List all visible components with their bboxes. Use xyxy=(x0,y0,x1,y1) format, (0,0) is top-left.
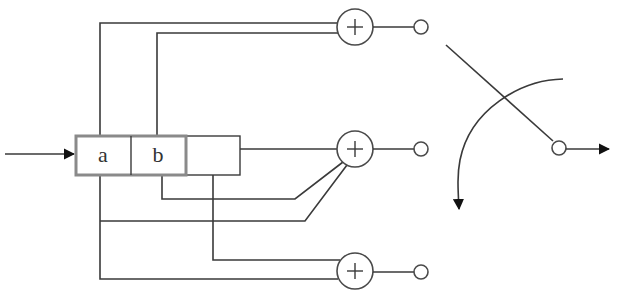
commutator-switch xyxy=(446,45,609,209)
wires-top-adder xyxy=(100,23,339,135)
register-cell-a-label: a xyxy=(98,142,108,167)
rotation-arrow-icon xyxy=(458,79,563,209)
convolutional-encoder-diagram: a b xyxy=(0,0,628,308)
output-terminal-top xyxy=(414,20,428,34)
wires-bottom-adder xyxy=(100,175,340,279)
adder-bottom xyxy=(337,253,428,289)
adder-top xyxy=(337,9,428,45)
register-cell-b-label: b xyxy=(153,142,164,167)
switch-arm xyxy=(446,45,553,141)
shift-register: a b xyxy=(76,136,240,175)
switch-output-terminal xyxy=(552,141,566,155)
adder-middle xyxy=(337,131,428,167)
output-terminal-bottom xyxy=(414,265,428,279)
output-terminal-middle xyxy=(414,142,428,156)
register-cell-c xyxy=(186,136,240,175)
